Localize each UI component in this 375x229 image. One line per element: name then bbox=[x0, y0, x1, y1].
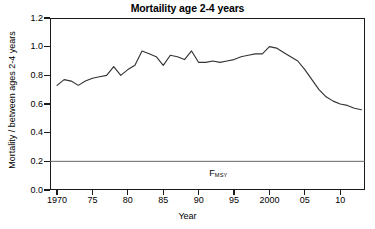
x-tick-mark bbox=[127, 190, 128, 195]
x-tick-label: 95 bbox=[229, 196, 239, 205]
y-axis-title: Mortality / between ages 2-4 years bbox=[7, 15, 17, 185]
y-tick-label: 0.6 bbox=[13, 100, 43, 109]
fmsy-subscript: MSY bbox=[215, 172, 228, 178]
y-tick-label: 0.8 bbox=[13, 71, 43, 80]
chart-title: Mortaility age 2-4 years bbox=[0, 2, 375, 15]
x-tick-label: 85 bbox=[158, 196, 168, 205]
x-tick-label: 90 bbox=[194, 196, 204, 205]
mortality-chart: Mortaility age 2-4 years Mortality / bet… bbox=[0, 0, 375, 229]
mortality-series-line bbox=[57, 47, 361, 110]
x-tick-mark bbox=[340, 190, 341, 195]
y-tick-label: 0.2 bbox=[13, 157, 43, 166]
x-tick-mark bbox=[304, 190, 305, 195]
x-tick-label: 75 bbox=[87, 196, 97, 205]
x-tick-mark bbox=[233, 190, 234, 195]
y-tick-label: 0.0 bbox=[13, 186, 43, 195]
fmsy-annotation-label: FMSY bbox=[209, 169, 227, 179]
x-tick-mark bbox=[269, 190, 270, 195]
y-tick-label: 1.0 bbox=[13, 42, 43, 51]
x-tick-label: 10 bbox=[335, 196, 345, 205]
x-tick-label: 80 bbox=[123, 196, 133, 205]
x-tick-label: 05 bbox=[300, 196, 310, 205]
x-tick-mark bbox=[92, 190, 93, 195]
fmsy-symbol: F bbox=[209, 168, 215, 178]
x-tick-label: 1970 bbox=[47, 196, 67, 205]
x-tick-mark bbox=[56, 190, 57, 195]
x-tick-mark bbox=[198, 190, 199, 195]
x-axis-title: Year bbox=[0, 211, 375, 221]
x-tick-mark bbox=[163, 190, 164, 195]
series-plot bbox=[50, 18, 365, 190]
y-tick-label: 0.4 bbox=[13, 128, 43, 137]
x-tick-label: 2000 bbox=[259, 196, 279, 205]
